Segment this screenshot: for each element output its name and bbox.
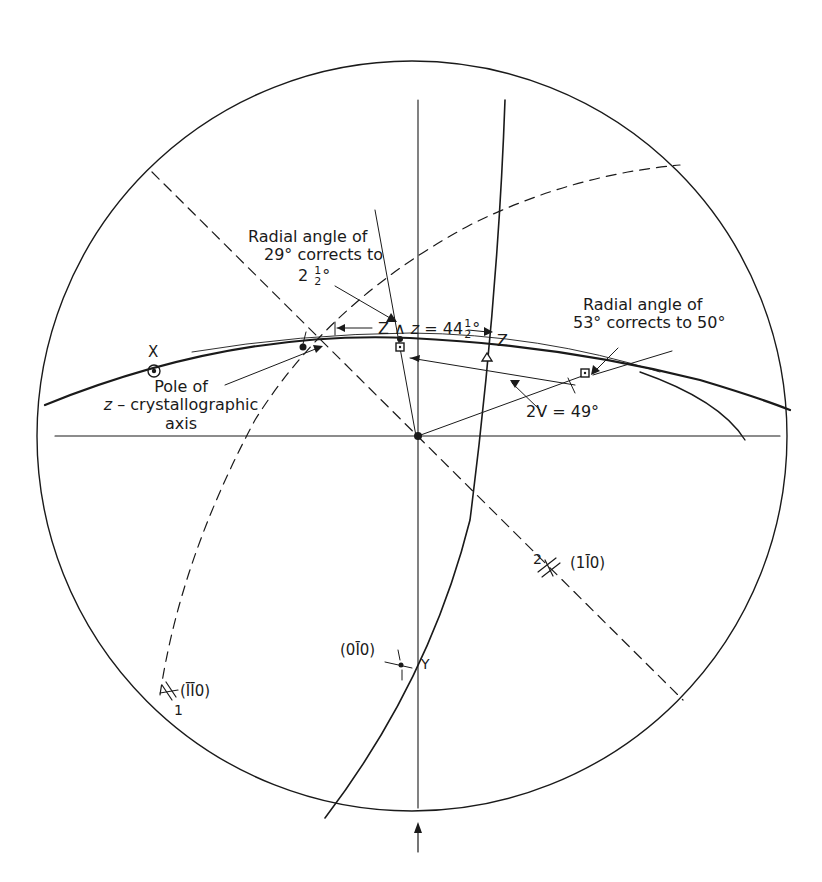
x-pole-dot: [152, 369, 156, 373]
z-angle-prefix: Z ∧: [378, 319, 411, 338]
label-marker-2: 2: [533, 551, 542, 567]
pole-line3: axis: [96, 415, 266, 433]
label-face-m1m10: (ĪĪ0): [180, 683, 210, 700]
pole-line1: Pole of: [96, 378, 266, 396]
two-v-arrowhead: [410, 355, 420, 362]
z-pole-point: [300, 344, 307, 351]
great-circle-optic-plane-tail: [640, 372, 745, 440]
label-x-axis: X: [148, 344, 158, 361]
label-marker-1: 1: [174, 702, 183, 718]
label-y-axis: Y: [421, 656, 430, 672]
radial-right-line2: 53° corrects to 50°: [573, 314, 725, 332]
z-angle-arrow-left: [337, 324, 345, 332]
radial-right-line1: Radial angle of: [573, 296, 725, 314]
great-circle-yz: [325, 100, 505, 818]
center-point: [414, 432, 422, 440]
z-angle-arrow-right: [484, 327, 493, 336]
z-angle-var: z: [411, 319, 419, 338]
radial-left-line1: Radial angle of: [248, 228, 383, 246]
label-radial-right: Radial angle of 53° corrects to 50°: [573, 296, 725, 333]
pole-arrowhead: [313, 345, 323, 353]
two-v-arrow-line: [410, 358, 575, 385]
y-point: [399, 663, 404, 668]
pole-rest: – crystallographic: [112, 395, 258, 414]
stereonet-diagram: Radial angle of 29° corrects to 2 1 2 ° …: [0, 0, 822, 882]
label-two-v: 2V = 49°: [526, 403, 599, 421]
label-z-axis: Z: [497, 332, 508, 350]
z-angle-deg: °: [472, 319, 480, 338]
label-z-angle: Z ∧ z = 4412°: [378, 318, 480, 340]
label-face-1m10: (1Ī0): [570, 555, 605, 572]
frac-den: 2: [464, 329, 471, 340]
label-radial-left: Radial angle of 29° corrects to 2 1 2 °: [248, 228, 383, 287]
stereonet-graphics: [0, 0, 822, 882]
z-angle-eq: = 44: [419, 319, 463, 338]
frac-den: 2: [314, 276, 321, 287]
label-pole: Pole of z – crystallographic axis: [96, 378, 266, 433]
radial-left-line2: 29° corrects to: [248, 246, 383, 264]
z-triangle-marker: [482, 353, 492, 361]
radial-left-fraction: 1 2: [314, 265, 321, 287]
pole-var: z: [104, 395, 112, 414]
face-m1m10-hash: [160, 682, 178, 700]
two-v-leader-arrowhead: [510, 380, 520, 388]
label-face-010: (0Ī0): [340, 642, 375, 659]
radial-left-deg: °: [322, 265, 330, 284]
radial-left-line3: 2 1 2 °: [248, 265, 383, 287]
radial-left-whole: 2: [298, 265, 308, 284]
bottom-arrowhead: [414, 822, 422, 833]
z-angle-fraction: 12: [464, 318, 471, 340]
pole-line2: z – crystallographic: [96, 396, 266, 414]
y-cross-v1: [398, 650, 400, 660]
